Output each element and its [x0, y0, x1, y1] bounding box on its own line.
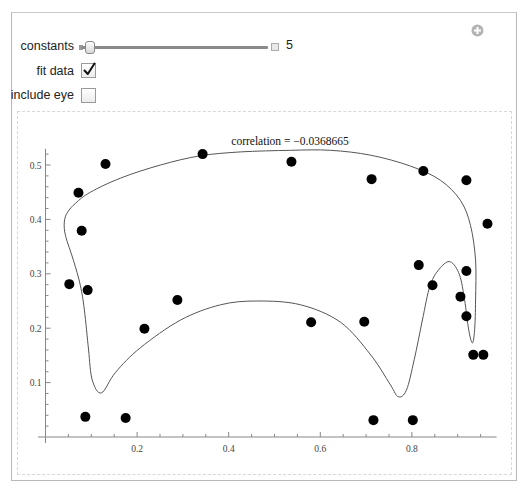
y-tick-label: 0.2 [30, 324, 42, 334]
data-point [306, 317, 316, 327]
data-point [414, 260, 424, 270]
data-points [64, 149, 492, 425]
x-tick-label: 0.6 [314, 444, 326, 454]
data-point [461, 266, 471, 276]
data-point [408, 415, 418, 425]
data-point [368, 415, 378, 425]
data-point [455, 292, 465, 302]
data-point [100, 159, 110, 169]
y-tick-label: 0.3 [30, 269, 42, 279]
data-point [482, 219, 492, 229]
data-point [172, 295, 182, 305]
data-point [198, 149, 208, 159]
scatter-plot: 0.20.40.60.80.10.20.30.40.5 correlation … [0, 0, 526, 494]
y-tick-label: 0.5 [30, 161, 42, 171]
x-tick-label: 0.4 [223, 444, 235, 454]
data-point [468, 350, 478, 360]
data-point [359, 317, 369, 327]
x-tick-label: 0.2 [131, 444, 143, 454]
data-point [64, 279, 74, 289]
data-point [367, 174, 377, 184]
y-tick-label: 0.1 [30, 378, 42, 388]
data-point [461, 175, 471, 185]
fitted-curve [64, 150, 476, 397]
data-point [478, 350, 488, 360]
data-point [73, 188, 83, 198]
data-point [139, 324, 149, 334]
data-point [77, 226, 87, 236]
data-point [286, 157, 296, 167]
data-point [83, 285, 93, 295]
data-point [428, 280, 438, 290]
data-point [80, 412, 90, 422]
y-tick-label: 0.4 [30, 215, 42, 225]
x-tick-label: 0.8 [406, 444, 418, 454]
data-point [461, 311, 471, 321]
plot-title: correlation = −0.0368665 [231, 135, 349, 147]
data-point [418, 166, 428, 176]
data-point [121, 413, 131, 423]
